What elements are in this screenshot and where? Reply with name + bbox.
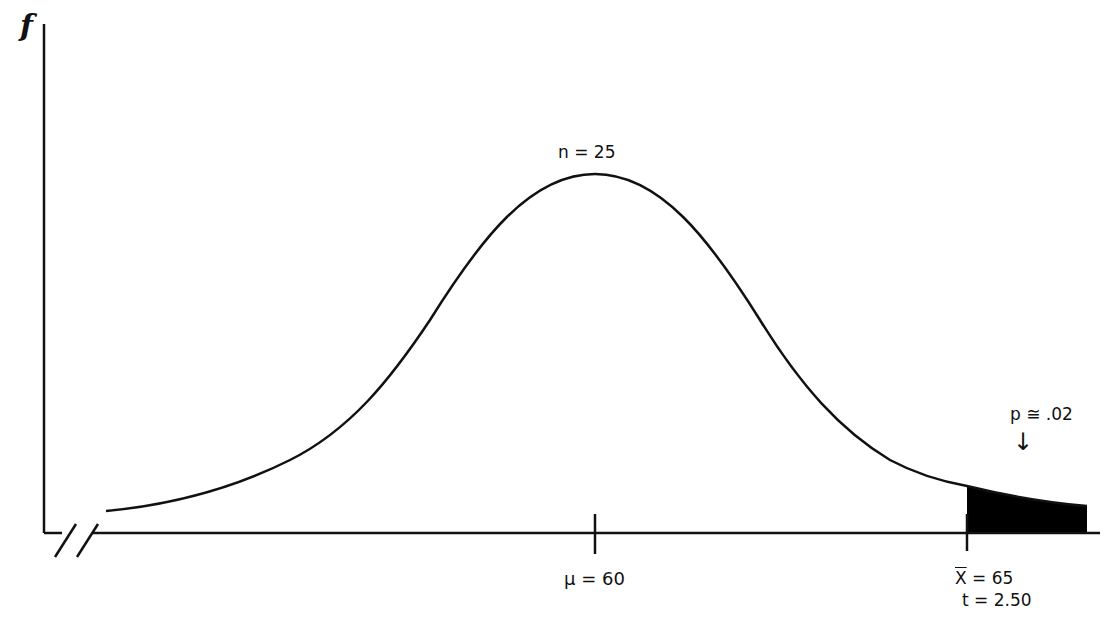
axis-break-mark [55,524,76,557]
t-distribution-chart [0,0,1108,630]
down-arrow-icon: ↓ [1013,428,1033,456]
shaded-tail-region [967,486,1087,533]
distribution-curve [106,174,1087,511]
xbar-value: = 65 [967,568,1014,588]
mu-label: μ = 60 [564,568,625,589]
mu-value: = 60 [575,568,624,589]
t-value-label: t = 2.50 [962,590,1032,610]
sample-size-label: n = 25 [558,142,615,162]
xbar-symbol: X [955,568,967,588]
mu-symbol: μ [564,568,575,589]
p-value-label: p ≅ .02 [1010,404,1073,424]
sample-mean-label: X = 65 [955,568,1013,588]
axis-break-mark [77,524,98,557]
y-axis-label: f [20,8,33,43]
